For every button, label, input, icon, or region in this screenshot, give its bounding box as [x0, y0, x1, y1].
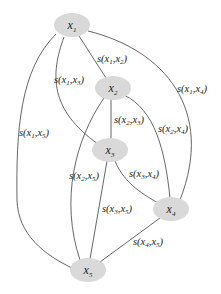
- label-s-x2-x5: s(x2,x5): [69, 170, 100, 183]
- edge-x2-x4: [124, 95, 170, 198]
- label-s-x1-x5: s(x1,x5): [19, 127, 50, 140]
- edge-x1-x5: [17, 34, 72, 268]
- graph-diagram: x1 x2 x3 x4 x5 s(x1,x2) s(x1,x3) s(x1,x4…: [0, 0, 221, 294]
- label-s-x1-x2: s(x1,x2): [97, 53, 128, 66]
- label-s-x1-x4: s(x1,x4): [177, 83, 208, 96]
- node-x3: x3: [92, 138, 128, 162]
- label-s-x1-x3: s(x1,x3): [54, 74, 85, 87]
- label-s-x3-x5: s(x3,x5): [102, 203, 133, 216]
- label-s-x2-x3: s(x2,x3): [114, 114, 145, 127]
- node-x1: x1: [54, 13, 90, 37]
- node-x5: x5: [70, 258, 106, 282]
- node-x4: x4: [153, 197, 189, 221]
- label-s-x3-x4: s(x3,x4): [129, 168, 160, 181]
- edge-x1-x3: [56, 37, 98, 144]
- node-x2: x2: [95, 76, 131, 100]
- label-s-x4-x5: s(x4,x5): [133, 236, 164, 249]
- label-s-x2-x4: s(x2,x4): [158, 123, 189, 136]
